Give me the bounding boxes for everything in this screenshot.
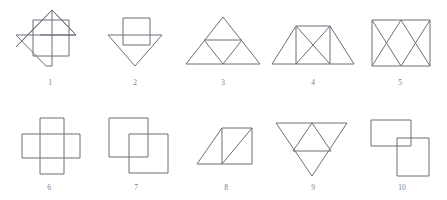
figure-2-label: 2 <box>125 79 145 87</box>
figure-3-label: 3 <box>213 79 233 87</box>
figure-8-slope <box>197 128 222 164</box>
figure-3 <box>184 14 264 68</box>
figure-2-square <box>123 18 150 45</box>
figure-8 <box>194 124 258 170</box>
figure-8-label: 8 <box>216 184 236 192</box>
figure-1-label: 1 <box>40 79 60 87</box>
figure-10-overlap-region <box>397 138 411 160</box>
figure-5 <box>370 16 434 70</box>
figure-7 <box>106 115 174 177</box>
figure-9-inner-right <box>312 123 331 151</box>
figure-5-label: 5 <box>390 79 410 87</box>
figure-10-label: 10 <box>392 184 412 192</box>
figure-7-label: 7 <box>126 184 146 192</box>
figure-6 <box>18 115 86 177</box>
figure-9 <box>273 118 351 180</box>
figure-2-triangle <box>108 35 162 66</box>
figure-3-inner-left <box>204 40 223 64</box>
figure-6-label: 6 <box>39 184 59 192</box>
figure-1 <box>14 4 89 74</box>
figure-10-vertical-rect <box>397 138 429 176</box>
figure-3-inner-right <box>223 40 242 64</box>
figure-1-spacer <box>16 47 52 72</box>
figure-10-horizontal-rect <box>371 120 411 146</box>
figure-1-diagonal-c <box>16 35 46 66</box>
figure-2 <box>106 14 166 70</box>
figures-sheet: 1 2 3 <box>0 0 447 200</box>
figure-1-diagonal-a <box>16 10 52 47</box>
figure-6-vertical-rect <box>40 118 64 174</box>
figure-8-square-diagonal <box>222 128 252 164</box>
figure-1-square <box>33 20 69 56</box>
figure-1-diagonal-b <box>52 10 76 35</box>
figure-6-horizontal-rect <box>22 134 80 158</box>
figure-4-right-slope <box>330 26 354 64</box>
figure-4 <box>270 18 356 68</box>
figure-9-label: 9 <box>303 184 323 192</box>
figure-10 <box>368 116 436 180</box>
figure-9-inner-left <box>293 123 312 151</box>
figure-4-left-slope <box>272 26 296 64</box>
figure-4-label: 4 <box>303 79 323 87</box>
